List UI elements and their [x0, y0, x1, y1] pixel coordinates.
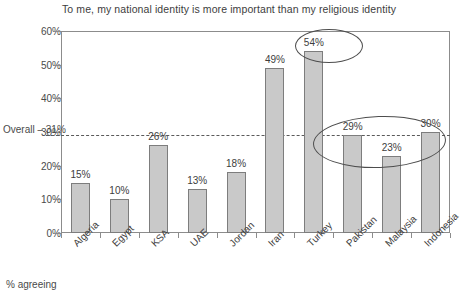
x-axis-tick-mark [217, 233, 218, 238]
x-axis-tick-mark [139, 233, 140, 238]
bar[interactable] [421, 132, 440, 233]
bar-value-label: 10% [99, 185, 139, 196]
x-axis-tick-mark [333, 233, 334, 238]
x-axis-tick-mark [100, 233, 101, 238]
bar-value-label: 54% [294, 37, 334, 48]
bar[interactable] [382, 156, 401, 233]
bar-value-label: 49% [255, 54, 295, 65]
x-axis-tick-mark [411, 233, 412, 238]
bar-value-label: 18% [216, 158, 256, 169]
x-axis-tick-mark [178, 233, 179, 238]
x-axis-tick-mark [61, 233, 62, 238]
overall-reference-line [46, 135, 450, 136]
x-axis-tick-mark [256, 233, 257, 238]
bar-value-label: 13% [177, 175, 217, 186]
chart-title: To me, my national identity is more impo… [62, 3, 442, 15]
x-axis-tick-mark [450, 233, 451, 238]
bar-value-label: 23% [372, 142, 412, 153]
y-axis: 0%10%20%30%40%50%60% [0, 0, 61, 299]
x-axis-tick-mark [372, 233, 373, 238]
bar[interactable] [265, 68, 284, 233]
bar-value-label: 26% [138, 131, 178, 142]
overall-reference-label: Overall – 31% [3, 124, 66, 135]
bar-value-label: 29% [333, 121, 373, 132]
bar[interactable] [304, 51, 323, 233]
bar-value-label: 15% [60, 169, 100, 180]
bar[interactable] [149, 145, 168, 233]
x-axis-tick-mark [294, 233, 295, 238]
bar[interactable] [343, 135, 362, 233]
chart-footnote: % agreeing [6, 279, 57, 290]
bar-value-label: 30% [411, 118, 451, 129]
